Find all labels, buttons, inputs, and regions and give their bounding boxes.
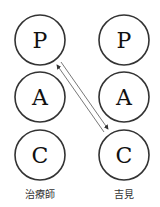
transaction-arrow-down [61,62,108,129]
right-child-letter: C [116,143,133,168]
transaction-arrow-up [57,65,104,132]
right-column-label: 吉見 [99,186,149,201]
pac-diagram: P A C P A C [0,0,160,207]
left-adult-letter: A [31,85,49,110]
left-child-letter: C [32,143,49,168]
right-adult-letter: A [115,85,133,110]
left-column-label: 治療師 [15,186,65,201]
right-parent-letter: P [117,28,132,53]
left-parent-letter: P [33,28,48,53]
